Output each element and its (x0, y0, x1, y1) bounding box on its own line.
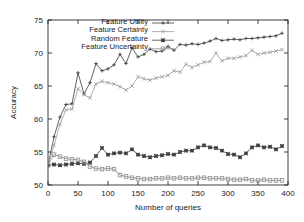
x-tick-label-400: 400 (281, 189, 295, 198)
y-tick-label-50: 50 (34, 181, 43, 190)
y-tick-label-65: 65 (34, 82, 43, 91)
x-tick-label-350: 350 (251, 189, 265, 198)
marker-star (70, 162, 74, 166)
marker-plus (250, 37, 254, 41)
marker-star (274, 148, 278, 152)
marker-plus (232, 37, 236, 41)
y-axis-label: Accuracy (9, 86, 18, 119)
marker-star (94, 154, 98, 158)
marker-star (148, 155, 152, 159)
marker-star (124, 152, 128, 156)
marker-cross (88, 96, 92, 100)
marker-cross (250, 49, 254, 53)
series-feature-certainty (46, 48, 284, 167)
marker-plus (268, 35, 272, 39)
marker-star (88, 161, 92, 165)
marker-cross (124, 88, 128, 92)
x-tick-label-50: 50 (74, 189, 83, 198)
marker-star (64, 163, 68, 167)
marker-star (262, 146, 266, 150)
series-line (48, 155, 282, 181)
marker-star (220, 149, 224, 153)
marker-plus (196, 43, 200, 47)
marker-cross (214, 51, 218, 55)
x-axis-label: Number of queries (135, 203, 201, 212)
marker-cross (118, 85, 122, 89)
series-line (48, 50, 282, 166)
marker-plus (88, 81, 92, 85)
marker-star (202, 144, 206, 148)
series-feature-uncertainty (46, 153, 284, 182)
marker-star (166, 152, 170, 156)
marker-cross (130, 84, 134, 88)
marker-star (172, 153, 176, 157)
chart-legend: Feature UtilityFeature CertaintyRandom F… (81, 17, 174, 52)
marker-cross (190, 66, 194, 70)
y-tick-label-60: 60 (34, 115, 43, 124)
marker-plus (208, 39, 212, 43)
marker-star (118, 151, 122, 155)
marker-plus (52, 135, 56, 139)
marker-plus (58, 115, 62, 119)
marker-star (256, 144, 260, 148)
marker-star (238, 155, 242, 159)
y-tick-label-75: 75 (34, 16, 43, 25)
marker-plus (262, 35, 266, 39)
accuracy-vs-queries-chart: 505560657075050100150200250300350400Numb… (0, 0, 304, 222)
marker-star (244, 152, 248, 156)
marker-star (190, 149, 194, 153)
marker-plus (280, 31, 284, 35)
legend-label-3: Feature Uncertainty (81, 42, 148, 51)
marker-plus (244, 37, 248, 41)
marker-star (184, 149, 188, 153)
marker-plus (202, 41, 206, 45)
marker-star (58, 163, 62, 167)
marker-star (214, 146, 218, 150)
marker-plus (214, 37, 218, 41)
marker-cross (184, 62, 188, 66)
marker-cross (220, 59, 224, 63)
marker-plus (220, 39, 224, 43)
y-tick-label-70: 70 (34, 49, 43, 58)
marker-star (208, 146, 212, 150)
marker-plus (76, 71, 80, 75)
marker-plus (154, 50, 158, 54)
marker-plus (190, 42, 194, 46)
marker-plus (274, 34, 278, 38)
marker-star (178, 150, 182, 154)
marker-plus (64, 103, 68, 107)
marker-star (52, 163, 56, 167)
marker-star (106, 153, 110, 157)
x-tick-label-0: 0 (46, 189, 51, 198)
marker-cross (94, 82, 98, 86)
marker-plus (161, 21, 165, 25)
marker-plus (184, 43, 188, 47)
x-tick-label-250: 250 (191, 189, 205, 198)
marker-star (161, 38, 165, 42)
y-tick-label-55: 55 (34, 148, 43, 157)
marker-star (130, 148, 134, 152)
marker-star (112, 152, 116, 156)
marker-star (268, 145, 272, 149)
series-feature-utility (46, 31, 284, 167)
x-tick-label-200: 200 (161, 189, 175, 198)
marker-star (154, 154, 158, 158)
marker-plus (226, 38, 230, 42)
marker-star (136, 153, 140, 157)
marker-plus (238, 38, 242, 42)
marker-star (226, 152, 230, 156)
marker-plus (256, 36, 260, 40)
x-tick-label-150: 150 (131, 189, 145, 198)
x-tick-label-100: 100 (101, 189, 115, 198)
marker-star (100, 146, 104, 150)
marker-cross (196, 63, 200, 67)
series-line (48, 33, 282, 165)
marker-star (232, 153, 236, 157)
marker-star (160, 154, 164, 158)
series-layer (46, 31, 284, 182)
marker-star (250, 146, 254, 150)
chart-figure: 505560657075050100150200250300350400Numb… (0, 0, 304, 222)
x-tick-label-300: 300 (221, 189, 235, 198)
marker-star (280, 144, 284, 148)
marker-star (196, 146, 200, 150)
